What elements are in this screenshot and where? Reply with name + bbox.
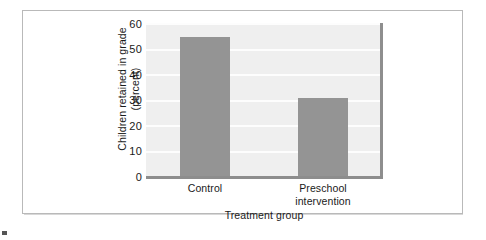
x-axis-tick-label-line: Control — [145, 182, 265, 195]
bar — [180, 37, 230, 177]
y-axis-title-wrapper: Children retained in grade(percent) — [88, 24, 106, 177]
x-axis-tick-label-line: intervention — [263, 195, 383, 208]
x-axis-tick-label: Preschoolintervention — [263, 182, 383, 208]
bar — [298, 98, 348, 177]
bar-chart: 0102030405060 Children retained in grade… — [0, 0, 486, 240]
x-axis-title: Treatment group — [146, 209, 382, 221]
y-axis-title-line: (percent) — [129, 0, 142, 194]
y-axis-title: Children retained in grade(percent) — [116, 0, 142, 194]
gridline — [146, 23, 382, 25]
x-axis-tick-label-line: Preschool — [263, 182, 383, 195]
x-axis-line — [146, 176, 383, 179]
x-axis-tick-label: Control — [145, 182, 265, 195]
plot-right-border — [380, 23, 383, 178]
y-axis-title-line: Children retained in grade — [116, 0, 129, 194]
plot-area — [146, 24, 382, 177]
